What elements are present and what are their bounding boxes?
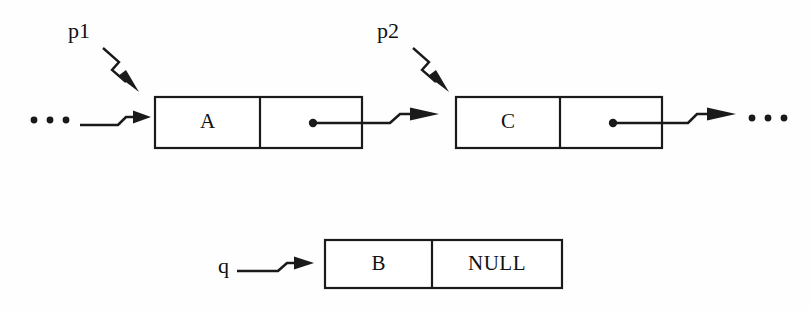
pointer-label-q: q	[218, 253, 229, 278]
linked-list-diagram: A C p1	[0, 0, 810, 310]
ellipsis-left	[31, 117, 70, 124]
pointer-label-p1: p1	[68, 18, 90, 43]
pointer-callout-p2: p2	[377, 18, 449, 92]
pointer-label-p2: p2	[377, 18, 399, 43]
node-b-box	[325, 240, 562, 288]
ellipsis-right	[749, 115, 788, 122]
incoming-arrow-to-node-a	[80, 111, 151, 126]
node-c-data-label: C	[501, 109, 515, 133]
node-a-data-label: A	[200, 109, 216, 133]
node-b: B NULL	[325, 240, 562, 288]
diagram-canvas: A C p1	[0, 0, 810, 310]
node-b-data-label: B	[371, 251, 385, 275]
pointer-callout-p1: p1	[68, 18, 139, 92]
pointer-callout-q: q	[218, 253, 314, 278]
node-b-next-label: NULL	[468, 251, 526, 275]
